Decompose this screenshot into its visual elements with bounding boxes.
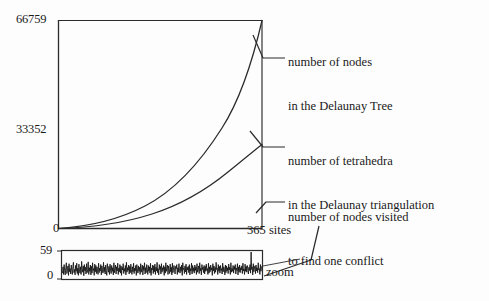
annotation-line-1: number of nodes (288, 55, 393, 70)
inset-y-max-label: 59 (40, 243, 52, 258)
zoom-inset-noise-signal (63, 252, 262, 276)
leader-line-tetrahedra (250, 131, 285, 147)
zoom-caption: zoom (266, 265, 294, 280)
annotation-line-2: in the Delaunay Tree (288, 99, 393, 114)
annotation-line-1: number of tetrahedra (288, 154, 434, 169)
y-axis-max-label: 66759 (16, 12, 46, 27)
inset-y-min-label: 0 (47, 268, 53, 283)
x-axis-max-label: 365 sites (247, 223, 291, 238)
leader-line-nodes-visited-upper (256, 202, 285, 213)
zoom-inset-axis-ticks (57, 251, 62, 279)
origin-label: 0 (53, 221, 59, 236)
y-axis-mid-label: 33352 (16, 122, 46, 137)
annotation-line-2: to find one conflict (288, 254, 408, 269)
curve-nodes-delaunay-tree (59, 21, 263, 229)
zoom-inset-frame (62, 251, 263, 280)
curve-tetrahedra-delaunay-triangulation (59, 145, 263, 229)
annotation-line-1: number of nodes visited (288, 210, 408, 225)
figure-canvas: 66759 33352 0 365 sites number of nodes … (0, 0, 489, 301)
annotation-nodes-visited-one-conflict: number of nodes visited to find one conf… (288, 180, 408, 298)
